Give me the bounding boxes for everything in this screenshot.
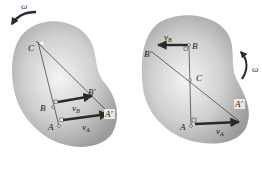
left-label-Bprime: B′ [88, 87, 96, 97]
left-label-Aprime: A′ [104, 109, 113, 119]
right-label-B: B [192, 41, 198, 51]
left-figure: ω C B vB B′ A vA A′ [12, 1, 117, 147]
right-point-A-marker [190, 125, 193, 128]
right-omega-arrow-icon [241, 52, 246, 79]
right-omega-label: ω [252, 64, 258, 74]
left-label-B: B [40, 103, 46, 113]
left-label-C: C [28, 43, 35, 53]
right-label-Bprime: B′ [144, 49, 152, 59]
right-label-Aprime: A′ [234, 99, 243, 109]
left-label-A: A [47, 122, 54, 132]
rigid-body-instant-center-diagram: ω C B vB B′ A vA A′ ω [0, 0, 262, 171]
left-point-C-marker [40, 41, 43, 44]
right-point-C-marker [189, 79, 192, 82]
left-point-A-marker [58, 125, 61, 128]
left-omega-arrow-icon [12, 12, 36, 24]
left-rigid-body [12, 21, 117, 147]
right-point-B-marker [188, 44, 191, 47]
right-figure: ω B vB B′ C A vA A′ [142, 15, 259, 143]
right-label-A: A [179, 122, 186, 132]
left-omega-label: ω [21, 1, 27, 11]
right-label-C: C [196, 73, 203, 83]
left-point-B-marker [52, 106, 55, 109]
